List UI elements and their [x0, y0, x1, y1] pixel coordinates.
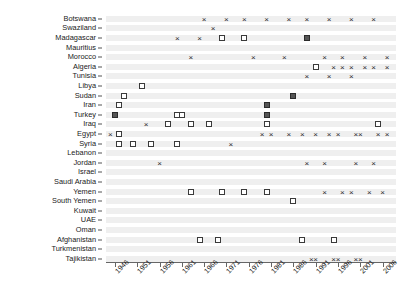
- y-axis-label-uae: UAE: [81, 216, 96, 224]
- data-point-cross-marker: [384, 54, 391, 61]
- data-point-open-square-marker: [148, 141, 154, 147]
- data-point-cross-marker: [259, 131, 266, 138]
- row-band: [106, 169, 396, 175]
- plot-area: [106, 14, 396, 262]
- data-point-cross-marker: [348, 15, 355, 22]
- y-axis-tick: [98, 76, 102, 77]
- row-band: [106, 112, 396, 118]
- data-point-cross-marker: [241, 15, 248, 22]
- y-axis-label-israel: Israel: [78, 168, 96, 176]
- data-point-cross-marker: [361, 63, 368, 70]
- data-point-open-square-marker: [116, 141, 122, 147]
- data-point-cross-marker: [357, 255, 364, 262]
- data-point-cross-marker: [303, 159, 310, 166]
- data-point-cross-marker: [285, 15, 292, 22]
- row-band: [106, 83, 396, 89]
- y-axis-category-labels: BotswanaSwazilandMadagascarMauritiusMoro…: [0, 0, 104, 262]
- y-axis-label-south-yemen: South Yemen: [52, 197, 96, 205]
- data-point-cross-marker: [348, 73, 355, 80]
- data-point-cross-marker: [335, 131, 342, 138]
- y-axis-tick: [98, 47, 102, 48]
- data-point-cross-marker: [335, 255, 342, 262]
- y-axis-tick: [98, 162, 102, 163]
- data-point-open-square-marker: [174, 141, 180, 147]
- data-point-cross-marker: [303, 73, 310, 80]
- y-axis-label-kuwait: Kuwait: [74, 207, 96, 215]
- row-band: [106, 198, 396, 204]
- y-axis-tick: [98, 38, 102, 39]
- data-point-filled-square-marker: [264, 112, 270, 118]
- data-point-cross-marker: [321, 188, 328, 195]
- data-point-cross-marker: [196, 35, 203, 42]
- data-point-cross-marker: [339, 63, 346, 70]
- row-band: [106, 93, 396, 99]
- row-band: [106, 179, 396, 185]
- data-point-open-square-marker: [197, 237, 203, 243]
- data-point-cross-marker: [339, 188, 346, 195]
- data-point-open-square-marker: [241, 35, 247, 41]
- data-point-open-square-marker: [121, 93, 127, 99]
- data-point-cross-marker: [366, 188, 373, 195]
- y-axis-tick: [98, 230, 102, 231]
- row-band: [106, 227, 396, 233]
- y-axis-tick: [98, 220, 102, 221]
- data-point-filled-square-marker: [264, 102, 270, 108]
- data-point-open-square-marker: [215, 237, 221, 243]
- data-point-cross-marker: [227, 140, 234, 147]
- data-point-open-square-marker: [188, 189, 194, 195]
- data-point-cross-marker: [352, 159, 359, 166]
- data-point-cross-marker: [223, 15, 230, 22]
- row-band: [106, 217, 396, 223]
- y-axis-label-tunisia: Tunisia: [72, 72, 96, 80]
- y-axis-label-morocco: Morocco: [68, 53, 96, 61]
- data-point-cross-marker: [357, 131, 364, 138]
- y-axis-label-madagascar: Madagascar: [55, 34, 96, 42]
- data-point-open-square-marker: [188, 121, 194, 127]
- data-point-cross-marker: [370, 15, 377, 22]
- data-point-cross-marker: [348, 188, 355, 195]
- y-axis-tick: [98, 249, 102, 250]
- data-point-cross-marker: [299, 131, 306, 138]
- data-point-cross-marker: [339, 54, 346, 61]
- data-point-cross-marker: [370, 63, 377, 70]
- data-point-cross-marker: [174, 35, 181, 42]
- data-point-open-square-marker: [130, 141, 136, 147]
- data-point-open-square-marker: [264, 189, 270, 195]
- data-point-filled-square-marker: [304, 35, 310, 41]
- y-axis-label-afghanistan: Afghanistan: [57, 236, 96, 244]
- data-point-open-square-marker: [219, 35, 225, 41]
- y-axis-label-lebanon: Lebanon: [67, 149, 96, 157]
- row-band: [106, 45, 396, 51]
- y-axis-label-tajikistan: Tajikistan: [66, 255, 96, 263]
- data-point-cross-marker: [281, 54, 288, 61]
- y-axis-label-swaziland: Swaziland: [62, 24, 96, 32]
- y-axis-label-mauritius: Mauritius: [66, 44, 96, 52]
- data-point-cross-marker: [156, 159, 163, 166]
- data-point-cross-marker: [384, 63, 391, 70]
- data-point-open-square-marker: [116, 131, 122, 137]
- data-point-cross-marker: [379, 188, 386, 195]
- y-axis-tick: [98, 134, 102, 135]
- data-point-open-square-marker: [290, 198, 296, 204]
- row-band: [106, 25, 396, 31]
- data-point-cross-marker: [384, 131, 391, 138]
- data-point-filled-square-marker: [112, 112, 118, 118]
- data-point-cross-marker: [361, 54, 368, 61]
- y-axis-label-egypt: Egypt: [77, 130, 96, 138]
- data-point-filled-square-marker: [290, 93, 296, 99]
- data-point-open-square-marker: [179, 112, 185, 118]
- data-point-cross-marker: [285, 131, 292, 138]
- data-point-open-square-marker: [264, 121, 270, 127]
- y-axis-tick: [98, 28, 102, 29]
- data-point-open-square-marker: [241, 189, 247, 195]
- data-point-cross-marker: [312, 255, 319, 262]
- data-point-open-square-marker: [313, 64, 319, 70]
- y-axis-tick: [98, 210, 102, 211]
- y-axis-tick: [98, 201, 102, 202]
- figure-root: BotswanaSwazilandMadagascarMauritiusMoro…: [0, 0, 403, 300]
- y-axis-tick: [98, 172, 102, 173]
- data-point-cross-marker: [312, 131, 319, 138]
- y-axis-tick: [98, 143, 102, 144]
- y-axis-tick: [98, 191, 102, 192]
- y-axis-tick: [98, 18, 102, 19]
